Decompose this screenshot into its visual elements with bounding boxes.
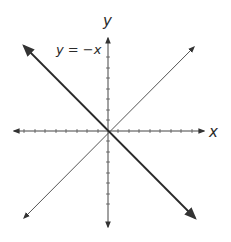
line-label: y = −x [55, 42, 102, 57]
x-axis-label: x [208, 123, 218, 141]
coordinate-diagram: y x y = −x [0, 0, 231, 242]
y-axis-label: y [102, 12, 113, 30]
